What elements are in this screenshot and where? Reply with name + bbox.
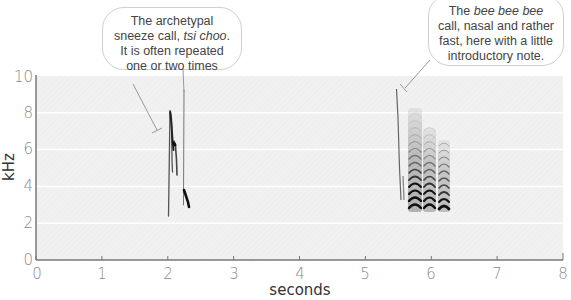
bee-annotation-text-italic: bee bee bee [474, 4, 544, 18]
svg-text:5: 5 [360, 265, 370, 283]
svg-text:8: 8 [23, 104, 33, 122]
svg-text:6: 6 [23, 140, 33, 158]
svg-text:0: 0 [23, 251, 33, 269]
x-axis-title: seconds [269, 281, 330, 299]
svg-text:10: 10 [14, 68, 33, 86]
sneeze-annotation-text-italic: tsi choo [183, 29, 226, 43]
harmonic-stack-3 [438, 140, 450, 212]
bee-call-annotation: The bee bee bee call, nasal and rather f… [428, 0, 564, 66]
plot-area [36, 76, 563, 260]
y-axis-title: kHz [0, 153, 18, 181]
svg-text:1: 1 [97, 265, 107, 283]
svg-text:3: 3 [229, 265, 239, 283]
svg-text:2: 2 [163, 265, 173, 283]
svg-text:6: 6 [426, 265, 436, 283]
svg-text:2: 2 [23, 214, 33, 232]
harmonic-stack-1 [408, 108, 422, 212]
harmonic-stack-2 [423, 128, 436, 213]
sneeze-call-annotation: The archetypal sneeze call, tsi choo. It… [102, 7, 242, 70]
bee-annotation-text-pre: The [449, 4, 474, 18]
svg-text:7: 7 [492, 265, 502, 283]
bee-annotation-text-post: call, nasal and rather fast, here with a… [438, 19, 554, 63]
svg-text:4: 4 [23, 177, 33, 195]
svg-text:0: 0 [32, 265, 42, 283]
svg-text:8: 8 [558, 265, 568, 283]
